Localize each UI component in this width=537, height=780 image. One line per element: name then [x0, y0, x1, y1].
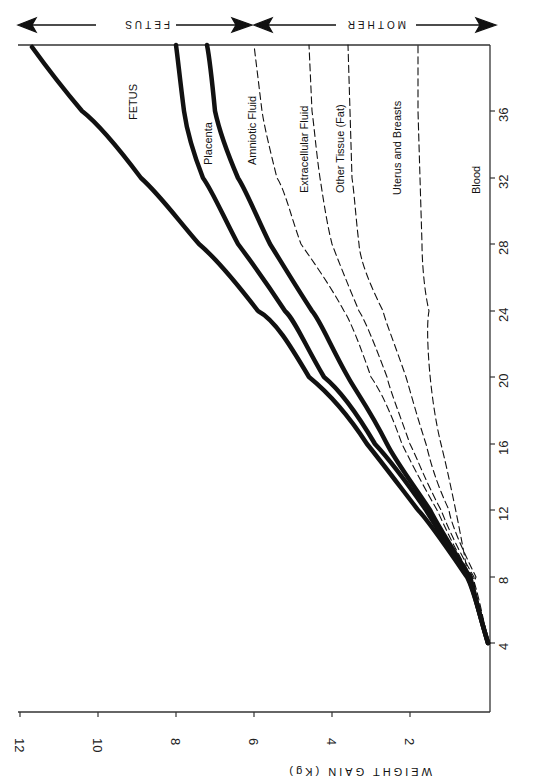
- y-tick-12: 12: [12, 738, 27, 752]
- weight-ticks: [20, 712, 410, 717]
- label-placenta: Placenta: [202, 121, 214, 165]
- y-tick-10: 10: [90, 738, 105, 752]
- x-tick-24: 24: [496, 308, 511, 322]
- curve-uterus-breasts: [348, 45, 488, 643]
- x-tick-28: 28: [496, 241, 511, 255]
- x-tick-4: 4: [496, 643, 511, 650]
- x-tick-12: 12: [496, 507, 511, 521]
- curve-labels: FETUS Placenta Amniotic Fluid Extracellu…: [127, 84, 482, 195]
- y-tick-4: 4: [324, 738, 339, 745]
- label-fetus: FETUS: [127, 84, 139, 120]
- x-tick-8: 8: [496, 577, 511, 584]
- x-tick-20: 20: [496, 374, 511, 388]
- x-tick-32: 32: [496, 175, 511, 189]
- weight-tick-labels: 12 10 8 6 4 2: [12, 738, 417, 752]
- x-tick-36: 36: [496, 108, 511, 122]
- label-uterus-breasts: Uterus and Breasts: [391, 100, 403, 195]
- curve-fetus: [32, 47, 488, 643]
- label-other-tissue: Other Tissue (Fat): [334, 104, 346, 193]
- bracket-arrows: [18, 18, 496, 32]
- mother-bracket-label: MOTHER: [345, 19, 406, 30]
- label-extracellular-fluid: Extracellular Fluid: [298, 106, 310, 193]
- week-ticks: [490, 111, 495, 643]
- x-tick-16: 16: [496, 441, 511, 455]
- week-tick-labels: 4 8 12 16 20 24 28 32 36: [496, 108, 511, 650]
- fetus-bracket-label: FETUS: [122, 19, 170, 30]
- y-tick-2: 2: [402, 738, 417, 745]
- curves: [32, 45, 488, 643]
- label-blood: Blood: [470, 166, 482, 194]
- label-amniotic-fluid: Amniotic Fluid: [246, 96, 258, 165]
- y-axis-label: WEIGHT GAIN (Kg): [286, 766, 432, 778]
- weight-gain-chart: 12 10 8 6 4 2 WEIGHT GAIN (Kg) 4 8 12 16…: [0, 0, 537, 780]
- y-tick-6: 6: [246, 738, 261, 745]
- y-tick-8: 8: [168, 738, 183, 745]
